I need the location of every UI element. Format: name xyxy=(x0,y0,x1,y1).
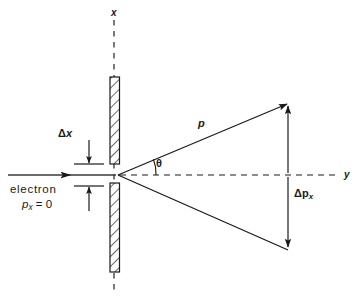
x-axis-label: x xyxy=(111,8,117,18)
delta-symbol-momentum: Δ xyxy=(294,187,302,199)
lower-diffracted-ray xyxy=(118,175,288,250)
incoming-momentum-label: px = 0 xyxy=(22,199,52,212)
momentum-spread-subscript: x xyxy=(309,192,313,201)
barrier-block-lower xyxy=(110,183,120,272)
momentum-vector-label: p xyxy=(198,118,205,129)
incoming-momentum-equation: = 0 xyxy=(33,198,53,210)
barrier-block-upper xyxy=(110,77,120,164)
momentum-spread-label: Δpx xyxy=(294,188,313,201)
physics-diagram-figure: x y θ p electron px = 0 Δx Δpx xyxy=(0,0,361,302)
momentum-spread-variable: p xyxy=(302,187,309,199)
y-axis-label: y xyxy=(344,170,350,180)
upper-diffracted-ray xyxy=(118,104,287,175)
electron-label: electron xyxy=(10,184,57,196)
slit-width-label: Δx xyxy=(58,128,72,139)
diagram-canvas xyxy=(0,0,361,302)
theta-angle-label: θ xyxy=(156,158,162,169)
slit-width-variable: x xyxy=(66,127,72,139)
delta-symbol: Δ xyxy=(58,127,66,139)
